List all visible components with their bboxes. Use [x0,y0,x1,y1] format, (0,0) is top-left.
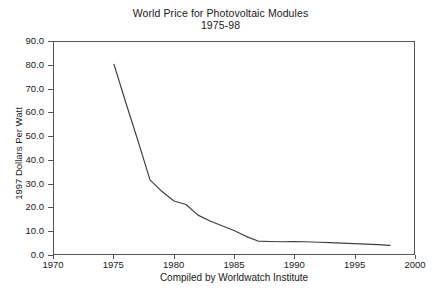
x-tick-label: 1995 [344,259,365,270]
x-tick-label: 1970 [42,259,63,270]
y-tick-label: 40.0 [26,155,45,165]
chart-subtitle: 1975-98 [0,19,441,31]
y-tick-label: 80.0 [26,60,45,70]
y-tick-label: 60.0 [26,108,45,118]
chart-caption: Compiled by Worldwatch Institute [53,272,415,283]
y-tick-label: 90.0 [26,36,45,46]
y-axis-tick-labels: 0.010.020.030.040.050.060.070.080.090.0 [0,41,50,255]
data-line-svg [54,42,414,254]
x-tick-label: 1985 [223,259,244,270]
y-tick-label: 30.0 [26,179,45,189]
x-tick-label: 2000 [404,259,425,270]
series-line-photovoltaic-price [114,64,390,245]
x-tick-label: 1990 [284,259,305,270]
y-tick-label: 10.0 [26,226,45,236]
y-tick-label: 50.0 [26,131,45,141]
x-tick-label: 1980 [163,259,184,270]
y-tick-label: 20.0 [26,203,45,213]
x-tick-label: 1975 [103,259,124,270]
plot-area [53,41,415,255]
x-axis-tick-labels: 1970197519801985199019952000 [0,259,441,273]
y-tick-label: 70.0 [26,84,45,94]
photovoltaic-price-chart: World Price for Photovoltaic Modules 197… [0,0,441,303]
chart-title: World Price for Photovoltaic Modules [0,7,441,19]
chart-title-block: World Price for Photovoltaic Modules 197… [0,7,441,31]
